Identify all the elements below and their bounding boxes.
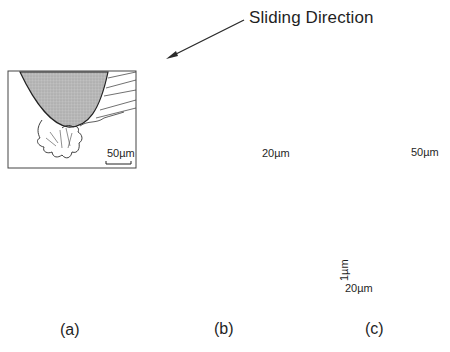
panel-label-b: (b) [214, 320, 234, 338]
profile-vertical-scale-label: 1µm [338, 259, 350, 281]
scale-bar-label-a: 50µm [107, 147, 135, 159]
panel-label-a: (a) [60, 321, 80, 339]
figure-canvas [0, 0, 450, 352]
scale-bar-label-c: 50µm [411, 146, 439, 158]
sliding-direction-arrow-icon [166, 20, 244, 59]
panel-label-c: (c) [365, 320, 384, 338]
scale-bar-label-b: 20µm [262, 147, 290, 159]
profile-horizontal-scale-label: 20µm [345, 282, 373, 294]
sliding-direction-label: Sliding Direction [249, 8, 374, 28]
